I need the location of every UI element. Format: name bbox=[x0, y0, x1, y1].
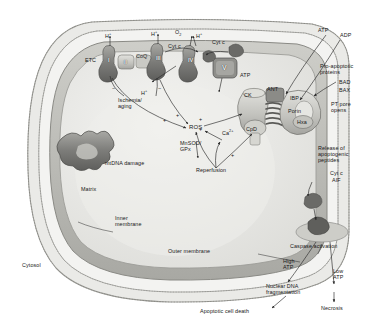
mtdna-damage-label: mtDNA damage bbox=[105, 160, 144, 166]
dna-fragmentation-label: Nuclear DNA fragmentation bbox=[266, 283, 300, 295]
plus-sign-1: + bbox=[163, 117, 166, 123]
matrix-label: Matrix bbox=[81, 186, 96, 192]
ibp-label: IBP bbox=[290, 95, 299, 101]
etc-label: ETC bbox=[85, 57, 96, 63]
complex-II-label: II bbox=[124, 59, 127, 65]
pro-apoptotic-label: Pro-apoptotic proteins bbox=[320, 63, 353, 75]
ck-label: CK bbox=[244, 92, 252, 98]
cpd-label: CpD bbox=[246, 126, 257, 132]
outer-membrane-label: Outer membrane bbox=[168, 248, 210, 254]
complex-I-label: I bbox=[108, 57, 110, 63]
adp-in-label: ADP bbox=[340, 32, 351, 38]
minus-sign-1: − bbox=[112, 85, 115, 91]
proton-label-3: H+ bbox=[196, 31, 202, 39]
hxa-label: Hxa bbox=[297, 119, 307, 125]
caspase-activation-label: Caspase activation bbox=[290, 243, 337, 249]
porin-label: Porin bbox=[288, 108, 301, 114]
proton-label-2: H+ bbox=[151, 29, 157, 37]
cytc-label-inner: Cyt c bbox=[168, 43, 181, 49]
plus-sign-2: + bbox=[176, 112, 179, 118]
reperfusion-label: Reperfusion bbox=[196, 167, 226, 173]
high-atp-label: High ATP bbox=[283, 258, 295, 270]
figure-canvas: ETC H+ H+ H+ H+ O2 I II III IV V CoQ Cyt… bbox=[0, 0, 376, 326]
cytosol-label: Cytosol bbox=[22, 262, 41, 268]
atp-from-complexV-label: ATP bbox=[240, 72, 250, 78]
inner-membrane-label: Inner membrane bbox=[115, 215, 142, 227]
complex-V-label: V bbox=[222, 64, 227, 71]
apoptotic-death-label: Apoptotic cell death bbox=[200, 308, 249, 314]
aif-label: AIF bbox=[332, 177, 341, 183]
cytc-label-outer: Cyt c bbox=[212, 39, 225, 45]
ant-label: ANT bbox=[267, 86, 278, 92]
minus-sign-2: − bbox=[158, 85, 161, 91]
complex-III-label: III bbox=[156, 55, 161, 61]
proton-label-4: H+ bbox=[141, 88, 147, 96]
cytc-release-label: Cyt c bbox=[330, 170, 343, 176]
proton-label-1: H+ bbox=[105, 31, 111, 39]
plus-sign-3: + bbox=[199, 116, 202, 122]
antioxidants-label: MnSOD/ GPx bbox=[180, 140, 201, 152]
bax-label: BAX bbox=[339, 87, 350, 93]
plus-sign-5: + bbox=[231, 152, 234, 158]
oxygen-label: O2 bbox=[175, 29, 182, 38]
ischemia-aging-label: Ischemia/ aging bbox=[118, 97, 142, 109]
bad-label: BAD bbox=[339, 79, 350, 85]
atp-in-label: ATP bbox=[318, 27, 328, 33]
necrosis-label: Necrosis bbox=[321, 305, 343, 311]
coq-label: CoQ bbox=[136, 53, 147, 59]
complex-IV-label: IV bbox=[188, 57, 193, 63]
calcium-label: Ca2+ bbox=[222, 128, 234, 136]
low-atp-label: Low ATP bbox=[333, 268, 343, 280]
pt-pore-opens-label: PT pore opens bbox=[331, 101, 351, 113]
release-label: Release of apoptogenic peptides bbox=[318, 145, 348, 164]
ros-label: ROS bbox=[189, 124, 202, 130]
